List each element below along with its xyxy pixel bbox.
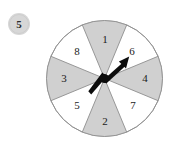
sector-label-3: 3 <box>61 72 67 84</box>
sector-label-8: 8 <box>74 45 80 57</box>
spinner-figure: 5 <box>0 0 179 154</box>
sector-label-7: 7 <box>130 99 136 111</box>
badge-number: 5 <box>16 18 22 30</box>
spinner-hub <box>100 74 109 83</box>
sector-label-1: 1 <box>102 33 108 45</box>
sector-label-5: 5 <box>74 99 80 111</box>
figure-root: 5 <box>0 0 179 154</box>
sector-label-4: 4 <box>142 72 148 84</box>
problem-number-badge: 5 <box>8 13 30 35</box>
sector-label-2: 2 <box>102 115 108 127</box>
sector-label-6: 6 <box>129 45 135 57</box>
